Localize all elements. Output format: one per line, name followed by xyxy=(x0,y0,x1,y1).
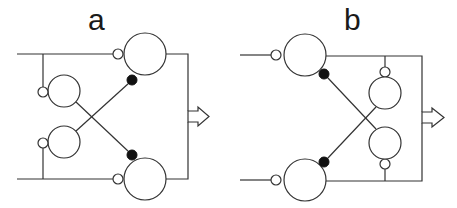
excitatory-synapse-icon xyxy=(113,174,123,184)
inhibitory-synapse-icon xyxy=(127,75,137,85)
inhibitory-synapse-icon xyxy=(319,157,329,167)
diagram-canvas: a b xyxy=(0,0,457,208)
panel-a: a xyxy=(17,3,209,200)
output-bus-bottom xyxy=(166,122,188,179)
excitatory-synapse-icon xyxy=(380,159,390,169)
output-bus-top xyxy=(166,54,188,111)
cross-line-up xyxy=(327,107,376,159)
panel-b: b xyxy=(240,3,444,201)
output-neuron-top xyxy=(124,33,166,75)
output-arrow-icon xyxy=(422,108,444,127)
cross-line-up xyxy=(76,83,129,131)
inhibitory-synapse-icon xyxy=(319,69,329,79)
interneuron-bottom xyxy=(48,126,80,158)
excitatory-synapse-icon xyxy=(113,49,123,59)
interneuron-bottom xyxy=(369,127,401,159)
interneuron-top xyxy=(48,75,80,107)
excitatory-synapse-icon xyxy=(380,67,390,77)
output-arrow-icon xyxy=(188,107,209,126)
excitatory-synapse-icon xyxy=(38,87,48,97)
excitatory-synapse-icon xyxy=(271,175,281,185)
panel-a-label: a xyxy=(88,3,105,36)
cross-line-down xyxy=(76,102,129,152)
inhibitory-synapse-icon xyxy=(127,150,137,160)
neuron-top xyxy=(284,34,326,76)
interneuron-top xyxy=(369,77,401,109)
excitatory-synapse-icon xyxy=(38,138,48,148)
panel-b-label: b xyxy=(344,3,361,36)
output-neuron-bottom xyxy=(124,158,166,200)
cross-line-down xyxy=(327,77,376,129)
excitatory-synapse-icon xyxy=(271,50,281,60)
